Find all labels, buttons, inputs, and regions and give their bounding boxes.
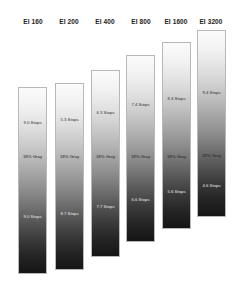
gray-18-label: 18% Gray	[163, 154, 190, 159]
stops-below-label: 4.6 Stops	[198, 183, 225, 188]
header-ei-800: EI 800	[123, 18, 159, 25]
gray-wedge-ei-1600: 8.4 Stops 18% Gray 5.6 Stops	[162, 42, 191, 229]
stops-below-label: 7.7 Stops	[92, 204, 119, 209]
header-ei-1600: EI 1600	[158, 18, 194, 25]
stops-above-label: 6.3 Stops	[92, 110, 119, 115]
stops-above-label: 9.0 Stops	[19, 120, 46, 125]
gray-wedge-ei-200: 5.3 Stops 18% Gray 8.7 Stops	[55, 83, 84, 270]
gray-18-label: 18% Gray	[19, 154, 46, 159]
gray-18-label: 18% Gray	[127, 154, 154, 159]
header-ei-3200: EI 3200	[193, 18, 229, 25]
stops-above-label: 9.4 Stops	[198, 90, 225, 95]
gray-wedge-ei-3200: 9.4 Stops 18% Gray 4.6 Stops	[197, 30, 226, 217]
gray-18-label: 18% Gray	[92, 154, 119, 159]
stops-below-label: 9.0 Stops	[19, 214, 46, 219]
stops-above-label: 7.4 Stops	[127, 102, 154, 107]
header-ei-160: EI 160	[15, 18, 51, 25]
gray-18-label: 18% Gray	[56, 154, 83, 159]
gray-18-label: 18% Gray	[198, 153, 225, 158]
stops-below-label: 8.7 Stops	[56, 211, 83, 216]
gray-wedge-ei-400: 6.3 Stops 18% Gray 7.7 Stops	[91, 70, 120, 257]
stops-below-label: 6.6 Stops	[127, 197, 154, 202]
gray-wedge-ei-800: 7.4 Stops 18% Gray 6.6 Stops	[126, 55, 155, 242]
header-ei-200: EI 200	[51, 18, 87, 25]
gray-wedge-ei-160: 9.0 Stops 18% Gray 9.0 Stops	[18, 87, 47, 274]
header-ei-400: EI 400	[87, 18, 123, 25]
stops-above-label: 5.3 Stops	[56, 117, 83, 122]
stops-above-label: 8.4 Stops	[163, 96, 190, 101]
stops-below-label: 5.6 Stops	[163, 189, 190, 194]
